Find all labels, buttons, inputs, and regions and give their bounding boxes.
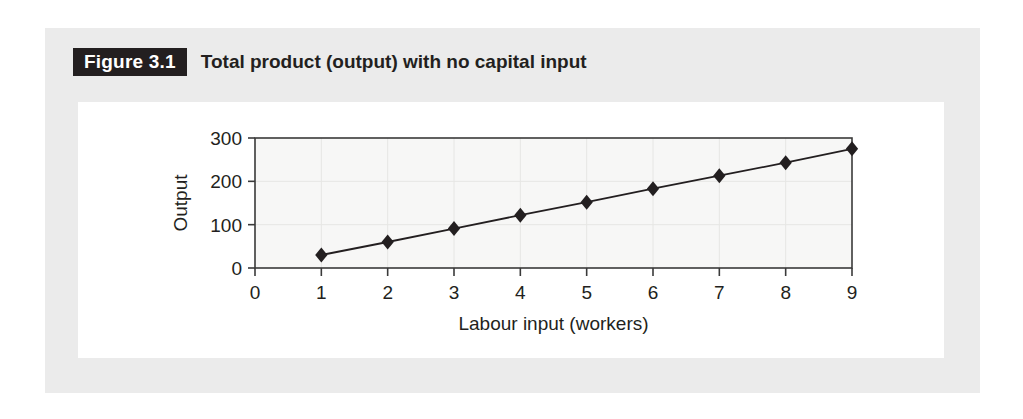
y-axis-tick-label: 100 [210,215,242,236]
y-axis-tick-label: 200 [210,171,242,192]
x-axis-tick-label: 4 [515,282,526,303]
x-axis-tick-label: 7 [714,282,725,303]
figure-panel: Figure 3.1 Total product (output) with n… [45,28,980,393]
x-axis-tick-label: 8 [780,282,791,303]
y-axis-title: Output [170,174,191,232]
line-chart: 01002003000123456789Labour input (worker… [78,102,944,358]
y-axis-tick-label: 0 [231,258,242,279]
plot-background [255,138,852,268]
chart-card: 01002003000123456789Labour input (worker… [78,102,944,358]
x-axis-tick-label: 9 [847,282,858,303]
figure-caption-text: Total product (output) with no capital i… [201,51,587,73]
x-axis-tick-label: 2 [382,282,393,303]
x-axis-tick-label: 3 [449,282,460,303]
x-axis-tick-label: 6 [648,282,659,303]
x-axis-title: Labour input (workers) [458,313,648,334]
figure-caption-row: Figure 3.1 Total product (output) with n… [73,46,587,78]
x-axis-tick-label: 5 [581,282,592,303]
figure-number-badge: Figure 3.1 [73,48,187,76]
x-axis-tick-label: 0 [250,282,261,303]
y-axis-tick-label: 300 [210,128,242,149]
x-axis-tick-label: 1 [316,282,327,303]
